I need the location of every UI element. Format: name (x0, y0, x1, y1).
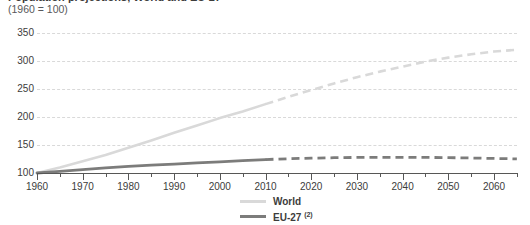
legend-swatch-eu27-icon (240, 215, 266, 218)
x-tick-label-1980: 1980 (108, 181, 148, 192)
y-tick-label-100: 100 (8, 168, 34, 178)
x-tick-2035 (380, 173, 381, 177)
chart-title-clipped: Population projections, World and EU-27 (8, 0, 428, 3)
population-projection-chart: Population projections, World and EU-27 … (0, 0, 530, 225)
x-tick-2030 (357, 173, 358, 180)
x-tick-2025 (334, 173, 335, 177)
x-tick-2015 (288, 173, 289, 177)
legend-label-eu27-footnote: (2) (304, 211, 313, 218)
x-tick-label-2000: 2000 (200, 181, 240, 192)
y-tick-label-300: 300 (8, 56, 34, 66)
x-axis-line (37, 173, 517, 174)
legend-label-eu27: EU-27 (2) (273, 209, 313, 223)
x-tick-2005 (243, 173, 244, 177)
x-tick-1985 (151, 173, 152, 177)
x-tick-1975 (106, 173, 107, 177)
series-eu27-projection (266, 157, 517, 159)
legend-label-world: World (273, 196, 301, 207)
x-tick-label-2050: 2050 (428, 181, 468, 192)
y-tick-label-250: 250 (8, 84, 34, 94)
series-world-projection (266, 50, 517, 104)
x-tick-label-1990: 1990 (154, 181, 194, 192)
legend-item-eu27[interactable]: EU-27 (2) (240, 211, 313, 222)
x-tick-label-2010: 2010 (246, 181, 286, 192)
x-tick-1990 (174, 173, 175, 180)
x-tick-2000 (220, 173, 221, 180)
x-tick-label-1960: 1960 (17, 181, 57, 192)
x-tick-1960 (37, 173, 38, 180)
x-tick-label-2020: 2020 (291, 181, 331, 192)
x-tick-label-2060: 2060 (474, 181, 514, 192)
legend-label-eu27-text: EU-27 (273, 213, 304, 224)
x-tick-2060 (494, 173, 495, 180)
x-tick-label-2040: 2040 (383, 181, 423, 192)
legend-item-world[interactable]: World (240, 196, 313, 207)
x-tick-1970 (83, 173, 84, 180)
x-tick-2050 (448, 173, 449, 180)
series-world-observed (37, 104, 266, 173)
chart-title: Population projections, World and EU-27 (8, 0, 428, 3)
y-tick-label-200: 200 (8, 112, 34, 122)
series-lines (37, 33, 517, 173)
series-eu27-observed (37, 160, 266, 173)
x-tick-2045 (425, 173, 426, 177)
chart-legend: World EU-27 (2) (240, 196, 313, 222)
plot-area (37, 33, 517, 173)
x-tick-2020 (311, 173, 312, 180)
x-tick-label-2030: 2030 (337, 181, 377, 192)
x-tick-label-1970: 1970 (63, 181, 103, 192)
x-tick-2055 (471, 173, 472, 177)
x-tick-1965 (60, 173, 61, 177)
x-tick-2010 (266, 173, 267, 180)
x-tick-1995 (197, 173, 198, 177)
y-tick-label-150: 150 (8, 140, 34, 150)
x-tick-1980 (128, 173, 129, 180)
y-tick-label-350: 350 (8, 28, 34, 38)
x-tick-2040 (403, 173, 404, 180)
chart-subtitle: (1960 = 100) (8, 3, 68, 16)
legend-swatch-world-icon (240, 200, 266, 203)
x-tick-2065 (517, 173, 518, 177)
